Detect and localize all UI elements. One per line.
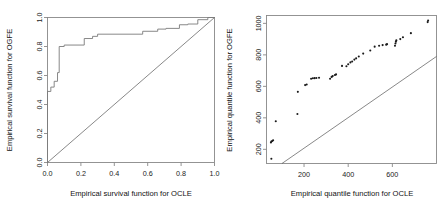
left-y-ticks — [44, 18, 48, 163]
scatter-point — [297, 91, 299, 93]
scatter-point — [386, 43, 388, 45]
right-xtick-label: 200 — [298, 170, 310, 179]
left-xtick-label: 0.0 — [43, 169, 53, 178]
scatter-point — [272, 139, 274, 141]
right-series — [270, 19, 437, 163]
right-x-axis-title: Empirical quantile function for OCLE — [291, 189, 413, 198]
left-reference-diagonal — [48, 18, 215, 163]
right-xtick-label: 400 — [342, 170, 354, 179]
scatter-point — [347, 63, 349, 65]
left-y-axis-title: Empirical survival function for OGFE — [5, 29, 14, 151]
right-ytick-label: 800 — [254, 49, 263, 61]
right-panel: 2004006002004006008001000 Empirical quan… — [225, 15, 437, 198]
left-xtick-label: 0.2 — [76, 169, 86, 178]
scatter-point — [335, 73, 337, 75]
right-ytick-label: 400 — [254, 112, 263, 124]
right-reference-line — [282, 56, 437, 163]
left-ytick-label: 0.0 — [35, 158, 44, 168]
scatter-point — [374, 46, 376, 48]
scatter-point — [402, 36, 404, 38]
left-ytick-label: 0.6 — [35, 71, 44, 81]
left-x-ticks — [48, 163, 215, 167]
right-tick-labels: 2004006002004006008001000 — [254, 15, 398, 178]
scatter-point — [315, 77, 317, 79]
right-ytick-label: 1000 — [254, 15, 263, 31]
scatter-point — [318, 77, 320, 79]
scatter-point — [395, 39, 397, 41]
right-x-ticks — [304, 164, 392, 168]
scatter-point — [382, 44, 384, 46]
scatter-point — [394, 42, 396, 44]
right-y-axis-title: Empirical quantile function for OGFE — [225, 28, 234, 151]
scatter-point — [399, 38, 401, 40]
scatter-point — [306, 83, 308, 85]
scatter-point — [329, 78, 331, 80]
scatter-point — [362, 53, 364, 55]
scatter-point — [394, 45, 396, 47]
left-x-axis-title: Empirical survival function for OCLE — [70, 189, 192, 198]
left-xtick-label: 0.8 — [176, 169, 186, 178]
scatter-point — [427, 19, 429, 21]
scatter-point — [341, 65, 343, 67]
left-ytick-label: 1.0 — [35, 13, 44, 23]
left-ytick-label: 0.8 — [35, 42, 44, 52]
left-xtick-label: 1.0 — [210, 169, 220, 178]
right-plot-frame — [267, 16, 437, 164]
left-xtick-label: 0.6 — [143, 169, 153, 178]
left-series — [48, 18, 215, 163]
left-ytick-label: 0.2 — [35, 129, 44, 139]
right-ytick-label: 200 — [254, 143, 263, 155]
scatter-point — [358, 55, 360, 57]
scatter-point — [296, 113, 298, 115]
scatter-point — [270, 158, 272, 160]
scatter-point — [378, 45, 380, 47]
scatter-point — [353, 59, 355, 61]
left-xtick-label: 0.4 — [109, 169, 119, 178]
scatter-point — [332, 75, 334, 77]
figure-container: 0.00.20.40.60.81.00.00.20.40.60.81.0 Emp… — [0, 0, 446, 212]
right-y-ticks — [263, 23, 267, 149]
scatter-point — [351, 60, 353, 62]
two-panel-figure: 0.00.20.40.60.81.00.00.20.40.60.81.0 Emp… — [0, 0, 446, 212]
left-ytick-label: 0.4 — [35, 100, 44, 110]
scatter-point — [275, 120, 277, 122]
scatter-point — [310, 78, 312, 80]
right-ytick-label: 600 — [254, 80, 263, 92]
scatter-point — [355, 57, 357, 59]
scatter-point — [345, 65, 347, 67]
scatter-point — [410, 32, 412, 34]
right-xtick-label: 600 — [386, 170, 398, 179]
right-scatter-points — [270, 19, 429, 159]
left-panel: 0.00.20.40.60.81.00.00.20.40.60.81.0 Emp… — [5, 13, 220, 199]
scatter-point — [369, 49, 371, 51]
